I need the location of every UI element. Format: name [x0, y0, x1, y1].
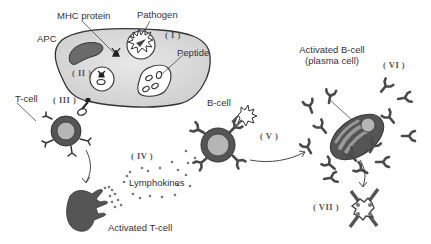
- step-I: ( I ): [165, 31, 181, 40]
- label-lymphokines: Lymphokines: [129, 178, 185, 188]
- label-mhc-protein: MHC protein: [57, 11, 110, 21]
- activated-t-cell: [67, 190, 108, 232]
- label-pathogen: Pathogen: [137, 10, 178, 20]
- step-VI: ( VI ): [383, 61, 405, 70]
- step-VII: ( VII ): [313, 203, 339, 212]
- label-peptide: Peptide: [177, 48, 209, 58]
- label-activated-b-cell: Activated B-cell: [287, 45, 377, 55]
- label-activated-t-cell: Activated T-cell: [108, 223, 172, 233]
- b-cell: [190, 105, 257, 170]
- label-b-cell: B-cell: [207, 98, 231, 108]
- t-cell: [42, 112, 91, 156]
- label-plasma-cell: (plasma cell): [287, 56, 377, 66]
- step-III: ( III ): [53, 96, 76, 105]
- label-t-cell: T-cell: [15, 94, 38, 104]
- step-V: ( V ): [260, 132, 278, 141]
- label-apc: APC: [37, 34, 57, 44]
- immune-response-diagram: MHC protein Pathogen APC ( I ) Peptide (…: [0, 0, 431, 244]
- antigen-antibody-complex: [350, 189, 378, 227]
- step-IV: ( IV ): [131, 152, 153, 161]
- step-II: ( II ): [72, 69, 92, 78]
